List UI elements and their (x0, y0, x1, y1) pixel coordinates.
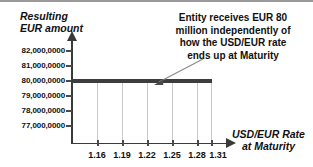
gridline-6 (211, 82, 212, 143)
gridline-4 (172, 82, 173, 143)
x-tick-1 (122, 140, 124, 146)
x-tick-label-3: 1.25 (163, 150, 181, 160)
annotation-line2: million independently of (157, 25, 309, 38)
y-tick-3 (66, 95, 72, 97)
y-tick-label-0: 82,000,0000 (22, 46, 65, 55)
y-tick-label-2: 80,000,0000 (22, 76, 65, 85)
y-tick-0 (66, 50, 72, 52)
y-tick-1 (66, 65, 72, 67)
x-tick-label-0: 1.16 (88, 150, 106, 160)
x-axis-arrow-icon (226, 138, 236, 148)
x-tick-2 (147, 140, 149, 146)
annotation-line4: ends up at Maturity (157, 50, 309, 63)
x-tick-label-4: 1.28 (188, 150, 206, 160)
annotation-line1: Entity receives EUR 80 (157, 12, 309, 25)
y-axis-line (71, 40, 73, 144)
y-axis-arrow-icon (67, 31, 77, 41)
payoff-data-line (71, 79, 212, 83)
x-tick-5 (211, 140, 213, 146)
y-tick-label-1: 81,000,0000 (22, 61, 65, 70)
x-tick-0 (97, 140, 99, 146)
gridline-5 (197, 82, 198, 143)
x-tick-label-5: 1.31 (209, 150, 227, 160)
y-tick-4 (66, 110, 72, 112)
chart-screenshot: Resulting EUR amount USD/EUR Rate at Mat… (0, 0, 313, 167)
gridline-2 (122, 82, 123, 143)
x-tick-4 (197, 140, 199, 146)
x-tick-3 (172, 140, 174, 146)
x-tick-label-2: 1.22 (138, 150, 156, 160)
annotation-line3: how the USD/EUR rate (157, 37, 309, 50)
y-tick-label-3: 79,000,0000 (22, 91, 65, 100)
gridline-3 (147, 82, 148, 143)
y-tick-label-4: 78,000,0000 (22, 106, 65, 115)
x-axis-line (71, 143, 227, 145)
gridline-1 (97, 82, 98, 143)
annotation-callout: Entity receives EUR 80 million independe… (157, 12, 309, 62)
y-tick-5 (66, 125, 72, 127)
x-tick-label-1: 1.19 (113, 150, 131, 160)
y-tick-label-5: 77,000,0000 (22, 121, 65, 130)
